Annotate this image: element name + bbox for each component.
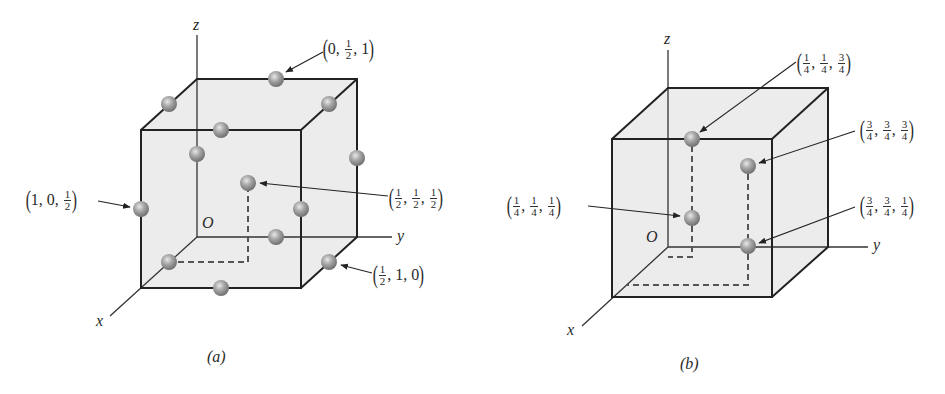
z-axis-label-b: z	[664, 30, 670, 48]
figure-b	[582, 50, 868, 326]
coord-label: (34,34,34)	[860, 117, 914, 143]
z-axis-label-a: z	[193, 16, 199, 34]
coord-label: (0,12,1)	[323, 36, 374, 62]
x-axis-label-b: x	[567, 321, 574, 339]
caption-a: (a)	[207, 348, 226, 366]
cube-b-fill	[612, 88, 828, 297]
coord-label: (12,1,0)	[373, 262, 424, 288]
origin-label-a: O	[202, 214, 214, 232]
y-axis-label-a: y	[397, 227, 404, 245]
coord-label: (1,0,12)	[26, 187, 77, 213]
coord-label: (14,14,14)	[507, 193, 561, 219]
figure-a	[98, 35, 392, 316]
caption-b: (b)	[680, 355, 699, 373]
y-axis-label-b: y	[873, 236, 880, 254]
origin-label-b: O	[646, 228, 658, 246]
coord-label: (14,14,34)	[797, 50, 851, 76]
x-axis-label-a: x	[96, 312, 103, 330]
coord-label: (34,34,14)	[860, 193, 914, 219]
coord-label: (12,12,12)	[389, 185, 443, 211]
